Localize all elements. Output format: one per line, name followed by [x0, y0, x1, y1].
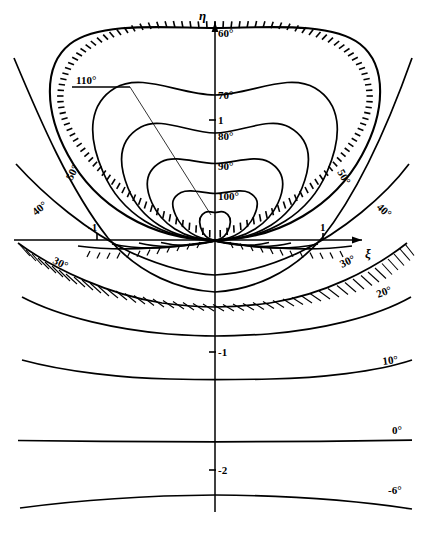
y-axis-label: η — [199, 8, 206, 23]
y-tick-label-neg2: -2 — [218, 464, 228, 476]
curve-label-100: 100° — [218, 190, 239, 202]
characteristics-plot: η ξ -1 1 1 -1 -2 60° 70° 80° 90° 100° 11… — [0, 0, 424, 537]
x-tick-label-pos1: 1 — [320, 221, 326, 233]
curve-label-80: 80° — [218, 130, 233, 142]
curve-label-110: 110° — [76, 74, 96, 86]
y-tick-label-pos1: 1 — [218, 114, 224, 126]
y-tick-label-neg1: -1 — [218, 346, 227, 358]
figure-canvas: η ξ -1 1 1 -1 -2 60° 70° 80° 90° 100° 11… — [0, 0, 424, 537]
curve-label-neg6-right: -6° — [388, 484, 402, 496]
curve-label-90: 90° — [218, 160, 233, 172]
curve-label-70: 70° — [218, 89, 233, 101]
x-tick-label-neg1: -1 — [88, 221, 97, 233]
curve-label-60: 60° — [218, 27, 233, 39]
curve-label-10-right: 10° — [382, 353, 399, 367]
curve-label-0-right: 0° — [392, 424, 402, 436]
x-axis-label: ξ — [365, 246, 371, 261]
